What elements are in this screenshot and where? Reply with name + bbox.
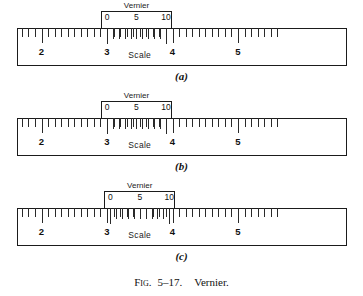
scale-minor-tick [28, 28, 29, 37]
scale-minor-tick [100, 118, 101, 127]
scale-minor-tick [245, 118, 246, 127]
scale-minor-tick [146, 118, 147, 127]
caption-prefix: Fig. [134, 276, 151, 288]
vernier-tick [140, 208, 141, 219]
scale-label: 5 [235, 47, 240, 57]
vernier-tick [136, 28, 137, 39]
vernier-tick [152, 208, 153, 219]
vernier-label: 0 [105, 103, 110, 112]
scale-minor-tick [277, 118, 278, 127]
scale-minor-tick [55, 118, 56, 127]
panel-letter: (c) [0, 250, 363, 262]
vernier-tick [107, 118, 108, 134]
scale-minor-tick [277, 28, 278, 37]
scale-word-label: Scale [128, 50, 151, 60]
vernier-panel: 2345Scale0510Vernier(a) [0, 0, 363, 90]
scale-minor-tick [35, 208, 36, 217]
vernier-tick [169, 208, 170, 224]
scale-minor-tick [55, 208, 56, 217]
scale-minor-tick [35, 118, 36, 127]
scale-minor-tick [120, 118, 121, 127]
scale-minor-tick [68, 208, 69, 217]
vernier-tick [125, 118, 126, 129]
scale-word-label: Scale [128, 230, 151, 240]
scale-minor-tick [140, 28, 141, 37]
scale-minor-tick [81, 28, 82, 37]
scale-minor-tick [186, 28, 187, 37]
vernier-tick [160, 28, 161, 39]
vernier-tick [148, 118, 149, 129]
vernier-label: 5 [137, 193, 142, 202]
scale-minor-tick [166, 208, 167, 217]
scale-minor-tick [251, 118, 252, 127]
vernier-tick [122, 208, 123, 219]
scale-minor-tick [205, 118, 206, 127]
scale-minor-tick [94, 118, 95, 127]
figure-caption: Fig.5–17.Vernier. [0, 276, 363, 288]
scale-minor-tick [192, 118, 193, 127]
vernier-tick [163, 208, 164, 219]
scale-minor-tick [231, 118, 232, 127]
main-scale-baseline [17, 208, 347, 209]
panel-letter: (b) [0, 160, 363, 172]
main-scale-baseline [17, 28, 347, 29]
scale-minor-tick [258, 118, 259, 127]
scale-major-tick [42, 208, 43, 223]
vernier-label: 10 [161, 13, 170, 22]
scale-minor-tick [48, 208, 49, 217]
scale-major-tick [173, 208, 174, 223]
vernier-tick [110, 208, 111, 224]
scale-major-tick [238, 118, 239, 133]
scale-major-tick [238, 208, 239, 223]
vernier-tick [119, 28, 120, 39]
scale-label: 4 [170, 137, 175, 147]
scale-minor-tick [35, 28, 36, 37]
scale-minor-tick [94, 208, 95, 217]
scale-label: 3 [104, 47, 109, 57]
scale-minor-tick [153, 208, 154, 217]
vernier-word-label: Vernier [127, 181, 152, 190]
scale-minor-tick [120, 208, 121, 217]
vernier-tick [157, 208, 158, 219]
scale-minor-tick [127, 118, 128, 127]
scale-minor-tick [192, 28, 193, 37]
vernier-tick [136, 118, 137, 129]
vernier-label: 0 [108, 193, 113, 202]
vernier-tick [107, 28, 108, 44]
scale-major-tick [42, 28, 43, 43]
vernier-tick [116, 208, 117, 219]
scale-label: 5 [235, 137, 240, 147]
scale-minor-tick [74, 208, 75, 217]
vernier-label: 10 [164, 193, 173, 202]
scale-minor-tick [28, 208, 29, 217]
scale-minor-tick [251, 208, 252, 217]
scale-minor-tick [68, 28, 69, 37]
vernier-tick [131, 118, 132, 129]
scale-minor-tick [271, 28, 272, 37]
main-scale-ruler [17, 118, 347, 156]
vernier-label: 5 [134, 103, 139, 112]
vernier-word-label: Vernier [124, 91, 149, 100]
scale-minor-tick [48, 28, 49, 37]
scale-minor-tick [192, 208, 193, 217]
scale-label: 2 [39, 227, 44, 237]
scale-minor-tick [271, 208, 272, 217]
scale-minor-tick [212, 208, 213, 217]
scale-minor-tick [231, 208, 232, 217]
scale-minor-tick [264, 28, 265, 37]
vernier-tick [113, 118, 114, 129]
scale-minor-tick [205, 28, 206, 37]
scale-minor-tick [225, 118, 226, 127]
scale-major-tick [107, 208, 108, 223]
scale-label: 3 [104, 137, 109, 147]
scale-minor-tick [87, 118, 88, 127]
vernier-tick [131, 28, 132, 39]
scale-minor-tick [94, 28, 95, 37]
vernier-panel: 2345Scale0510Vernier(b) [0, 90, 363, 180]
scale-minor-tick [146, 28, 147, 37]
scale-major-tick [238, 28, 239, 43]
scale-minor-tick [179, 208, 180, 217]
vernier-panel: 2345Scale0510Vernier(c) [0, 180, 363, 270]
scale-minor-tick [186, 208, 187, 217]
main-scale-baseline [17, 118, 347, 119]
